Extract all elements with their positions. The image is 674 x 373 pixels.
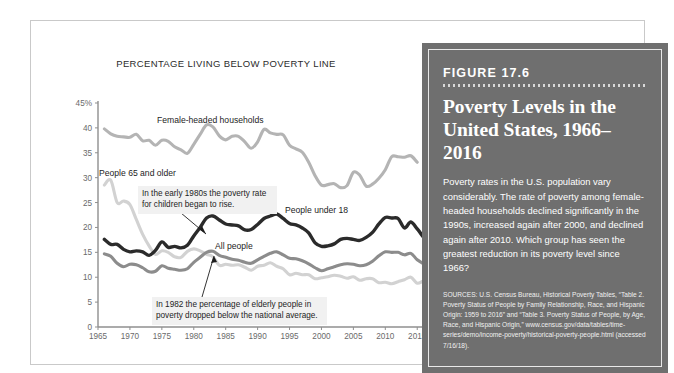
svg-text:1975: 1975 xyxy=(153,332,172,341)
svg-text:45%: 45% xyxy=(76,99,92,108)
figure-body-text: Poverty rates in the U.S. population var… xyxy=(443,175,647,275)
series-label-people-under-18: People under 18 xyxy=(285,205,348,215)
figure-panel-inner: FIGURE 17.6 Poverty Levels in the United… xyxy=(428,49,662,367)
svg-text:2015: 2015 xyxy=(408,332,422,341)
svg-text:2010: 2010 xyxy=(376,332,395,341)
svg-text:15: 15 xyxy=(83,248,93,257)
chart-panel: PERCENTAGE LIVING BELOW POVERTY LINE 45%… xyxy=(30,20,422,365)
series-label-people-65-and-older: People 65 and older xyxy=(99,168,176,178)
figure-number: FIGURE 17.6 xyxy=(443,66,647,80)
svg-text:1990: 1990 xyxy=(249,332,268,341)
svg-text:10: 10 xyxy=(83,273,93,282)
svg-text:0: 0 xyxy=(87,323,92,332)
svg-text:1965: 1965 xyxy=(89,332,108,341)
series-label-female-headed: Female-headed households xyxy=(157,115,264,125)
svg-text:1985: 1985 xyxy=(217,332,236,341)
annotation-children-rise: In the early 1980s the poverty rate for … xyxy=(138,186,277,214)
figure-title: Poverty Levels in the United States, 196… xyxy=(443,96,647,164)
svg-text:20: 20 xyxy=(83,223,93,232)
svg-text:40: 40 xyxy=(83,124,93,133)
svg-text:2000: 2000 xyxy=(312,332,331,341)
series-line-0 xyxy=(104,124,417,187)
figure-panel: FIGURE 17.6 Poverty Levels in the United… xyxy=(422,43,668,373)
figure-sources-text: SOURCES: U.S. Census Bureau, Historical … xyxy=(443,290,647,351)
svg-text:5: 5 xyxy=(87,298,92,307)
figure-divider-rule xyxy=(443,84,647,87)
svg-text:1995: 1995 xyxy=(280,332,299,341)
svg-text:35: 35 xyxy=(83,149,93,158)
svg-text:2005: 2005 xyxy=(344,332,363,341)
annotation-elderly-below-average: In 1982 the percentage of elderly people… xyxy=(152,297,327,325)
series-label-all-people: All people xyxy=(215,241,253,251)
svg-text:25: 25 xyxy=(83,199,93,208)
svg-text:1980: 1980 xyxy=(185,332,204,341)
svg-text:1970: 1970 xyxy=(121,332,140,341)
svg-text:30: 30 xyxy=(83,174,93,183)
